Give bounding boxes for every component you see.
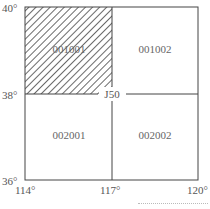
cell-001001-label: 001001 [53, 43, 86, 55]
cell-002002-label: 002002 [139, 129, 172, 141]
lat-label-top: 40° [2, 2, 17, 14]
cropped-caption-fragment [138, 203, 208, 208]
map-sheet-grid-diagram: J50 40° 38° 36° 114° 117° 120° 001001 00… [0, 0, 210, 209]
center-label: J50 [104, 88, 120, 100]
cell-002001-label: 002001 [53, 129, 86, 141]
cell-001002-label: 001002 [139, 43, 172, 55]
lat-label-mid: 38° [2, 89, 17, 101]
lon-label-mid: 117° [100, 184, 121, 196]
lon-label-left: 114° [15, 184, 36, 196]
lon-label-right: 120° [187, 184, 208, 196]
